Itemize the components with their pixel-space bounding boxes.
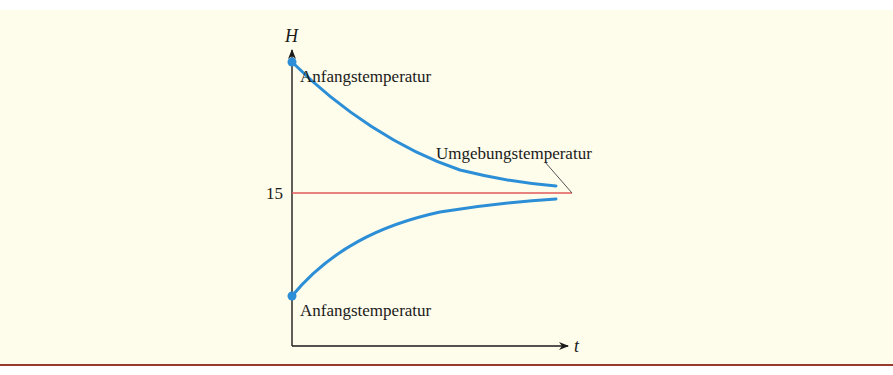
x-axis-label: t: [574, 336, 580, 356]
initial-temp-label-lower: Anfangstemperatur: [300, 301, 432, 320]
initial-point-lower: [288, 292, 297, 301]
y-axis-label: H: [284, 26, 299, 46]
ambient-temp-label: Umgebungstemperatur: [436, 144, 592, 163]
ambient-label-pointer: [545, 162, 572, 193]
cooling-diagram: H t 15 Anfangstemperatur Anfangstemperat…: [0, 0, 893, 375]
warming-curve: [292, 199, 556, 296]
initial-temp-label-upper: Anfangstemperatur: [300, 67, 432, 86]
y-tick-15: 15: [266, 184, 283, 203]
initial-point-upper: [288, 58, 297, 67]
